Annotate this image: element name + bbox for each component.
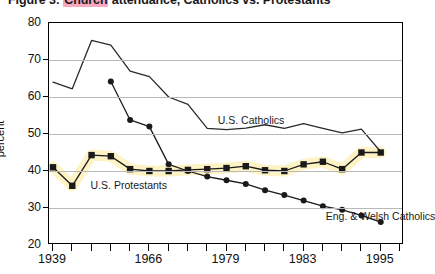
- y-axis: percent 20304050607080: [0, 0, 48, 274]
- series-marker-square: [243, 163, 249, 169]
- series-marker-circle: [224, 177, 230, 183]
- x-axis-tick: [399, 244, 400, 251]
- x-axis-tick: [283, 244, 284, 251]
- figure-title-highlight: Church: [63, 0, 108, 7]
- x-axis-tick: [52, 244, 53, 251]
- x-axis-ticks: [48, 244, 403, 252]
- series-marker-circle: [243, 181, 249, 187]
- series-marker-square: [358, 149, 364, 155]
- series-marker-circle: [301, 198, 307, 204]
- series-marker-square: [320, 159, 326, 165]
- series-marker-square: [88, 152, 94, 158]
- figure-title-suffix: attendance, Catholics vs. Protestants: [108, 0, 330, 7]
- x-axis-tick: [187, 244, 188, 251]
- y-axis-tick-label: 40: [28, 163, 41, 177]
- x-axis-tick: [380, 244, 381, 251]
- series-annotation-label: U.S. Protestants: [91, 179, 167, 191]
- series-marker-square: [50, 164, 56, 170]
- x-axis-tick: [245, 244, 246, 251]
- x-axis-tick: [264, 244, 265, 251]
- x-axis-tick-label: 1979: [212, 252, 240, 266]
- x-axis-tick: [129, 244, 130, 251]
- y-gridline: [49, 208, 402, 209]
- x-axis-tick: [341, 244, 342, 251]
- y-gridline: [49, 60, 402, 61]
- y-axis-tick-label: 50: [28, 126, 41, 140]
- series-annotation-label: U.S. Catholics: [218, 114, 285, 126]
- series-marker-circle: [281, 192, 287, 198]
- x-axis-tick: [71, 244, 72, 251]
- x-axis-tick-label: 1983: [289, 252, 317, 266]
- x-axis-tick-label: 1966: [134, 252, 162, 266]
- y-axis-tick-label: 80: [28, 15, 41, 29]
- series-marker-square: [108, 153, 114, 159]
- x-axis-tick: [303, 244, 304, 251]
- series-marker-circle: [146, 124, 152, 130]
- figure-title: Figure 3: Church attendance, Catholics v…: [0, 0, 419, 12]
- x-axis-tick: [148, 244, 149, 251]
- series-marker-square: [69, 183, 75, 189]
- series-marker-circle: [262, 187, 268, 193]
- x-axis-tick-label: 1995: [366, 252, 394, 266]
- y-axis-tick-label: 60: [28, 89, 41, 103]
- x-axis-tick: [226, 244, 227, 251]
- series-marker-circle: [166, 161, 172, 167]
- y-gridline: [49, 134, 402, 135]
- series-marker-square: [378, 149, 384, 155]
- y-axis-tick-label: 30: [28, 200, 41, 214]
- x-axis-tick: [168, 244, 169, 251]
- series-marker-circle: [127, 117, 133, 123]
- x-axis-tick: [360, 244, 361, 251]
- x-axis-tick-label: 1939: [38, 252, 66, 266]
- x-axis-labels: 19391966197919831995: [0, 252, 419, 272]
- series-marker-circle: [108, 78, 114, 84]
- x-axis-tick: [322, 244, 323, 251]
- series-marker-square: [300, 161, 306, 167]
- series-line: [111, 81, 381, 222]
- y-axis-tick-label: 70: [28, 52, 41, 66]
- y-gridline: [49, 97, 402, 98]
- series-marker-circle: [204, 174, 210, 180]
- y-axis-tick-label: 20: [28, 237, 41, 251]
- x-axis-tick: [206, 244, 207, 251]
- x-axis-tick: [91, 244, 92, 251]
- x-axis-tick: [110, 244, 111, 251]
- y-axis-title: percent: [0, 121, 6, 158]
- y-gridline: [49, 171, 402, 172]
- series-annotation-label: Eng. & Welsh Catholics: [326, 210, 435, 222]
